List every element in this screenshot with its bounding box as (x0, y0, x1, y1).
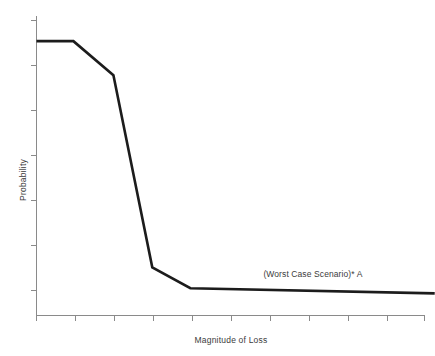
chart-canvas: Probability Magnitude of Loss (Worst Cas… (0, 0, 435, 356)
chart-figure: Probability Magnitude of Loss (Worst Cas… (0, 0, 435, 356)
y-axis-ticks (31, 21, 37, 291)
worst-case-scenario-label: (Worst Case Scenario)* A (263, 269, 362, 279)
data-line-risk-curve-a (37, 41, 435, 293)
x-axis-ticks (37, 316, 425, 322)
y-axis-label: Probability (18, 159, 28, 201)
x-axis-label: Magnitude of Loss (195, 335, 268, 345)
